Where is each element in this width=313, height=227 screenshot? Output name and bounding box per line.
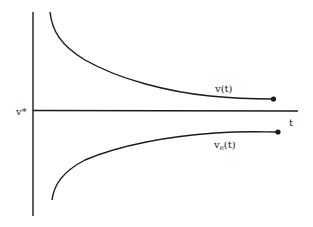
horizontal-axis xyxy=(33,111,298,112)
lower-curve-endpoint xyxy=(275,129,280,134)
v-t-label: v(t) xyxy=(214,83,233,94)
convergence-diagram: v* t v(t) ve(t) xyxy=(0,0,313,227)
ve-t-label: ve(t) xyxy=(213,139,236,152)
upper-curve-v xyxy=(50,12,272,99)
upper-curve-endpoint xyxy=(271,96,276,101)
v-star-label: v* xyxy=(15,106,27,117)
t-axis-label: t xyxy=(289,117,293,128)
ve-suffix: (t) xyxy=(224,139,236,150)
lower-curve-ve xyxy=(52,132,276,200)
